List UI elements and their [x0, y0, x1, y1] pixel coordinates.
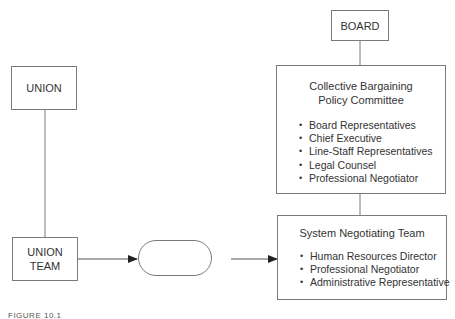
union-team-node: UNION TEAM — [12, 237, 78, 281]
policy-committee-node: Collective Bargaining Policy Committee B… — [276, 65, 446, 194]
member-item: Legal Counsel — [297, 159, 445, 172]
member-item: Chief Executive — [297, 132, 445, 145]
board-node: BOARD — [331, 10, 389, 41]
board-label: BOARD — [340, 19, 379, 33]
member-item: Board Representatives — [297, 119, 445, 132]
member-item: Professional Negotiator — [297, 172, 445, 185]
negotiating-team-members: Human Resources Director Professional Ne… — [278, 250, 446, 290]
policy-committee-title: Collective Bargaining Policy Committee — [277, 79, 445, 107]
member-item: Administrative Representative — [298, 276, 446, 289]
union-label: UNION — [26, 81, 61, 95]
member-item: Human Resources Director — [298, 250, 446, 263]
policy-committee-members: Board Representatives Chief Executive Li… — [277, 119, 445, 185]
union-node: UNION — [11, 66, 77, 110]
union-team-label: UNION TEAM — [27, 245, 62, 273]
negotiating-team-title: System Negotiating Team — [278, 226, 446, 240]
negotiating-team-node: System Negotiating Team Human Resources … — [277, 215, 447, 300]
mediator-node — [138, 240, 212, 276]
figure-caption: FIGURE 10.1 — [8, 311, 62, 319]
member-item: Professional Negotiator — [298, 263, 446, 276]
member-item: Line-Staff Representatives — [297, 145, 445, 158]
